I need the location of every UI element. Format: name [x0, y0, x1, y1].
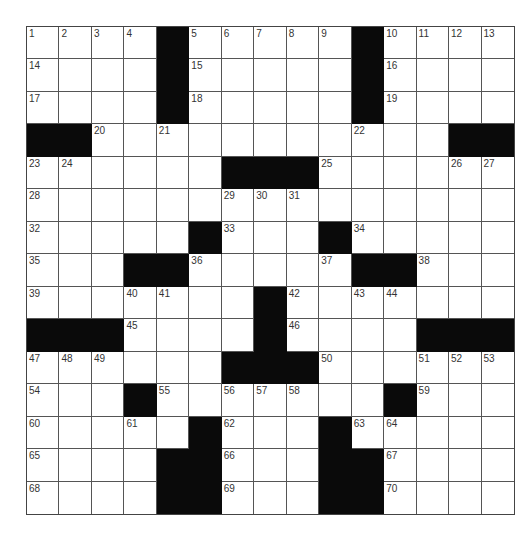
grid-cell[interactable]: 41	[157, 287, 189, 319]
grid-cell[interactable]: 50	[319, 352, 351, 384]
grid-cell[interactable]: 8	[287, 27, 319, 59]
grid-cell[interactable]	[157, 189, 189, 221]
grid-cell[interactable]	[92, 287, 124, 319]
grid-cell[interactable]	[157, 319, 189, 351]
grid-cell[interactable]	[254, 92, 286, 124]
grid-cell[interactable]	[482, 254, 514, 286]
grid-cell[interactable]	[59, 287, 91, 319]
grid-cell[interactable]: 64	[384, 417, 416, 449]
grid-cell[interactable]	[189, 384, 221, 416]
grid-cell[interactable]	[59, 384, 91, 416]
grid-cell[interactable]: 40	[124, 287, 156, 319]
grid-cell[interactable]	[482, 59, 514, 91]
grid-cell[interactable]: 24	[59, 157, 91, 189]
grid-cell[interactable]: 12	[449, 27, 481, 59]
grid-cell[interactable]	[449, 417, 481, 449]
grid-cell[interactable]	[59, 254, 91, 286]
grid-cell[interactable]	[319, 384, 351, 416]
grid-cell[interactable]: 29	[222, 189, 254, 221]
grid-cell[interactable]: 44	[384, 287, 416, 319]
grid-cell[interactable]: 60	[27, 417, 59, 449]
grid-cell[interactable]: 10	[384, 27, 416, 59]
grid-cell[interactable]: 54	[27, 384, 59, 416]
grid-cell[interactable]: 49	[92, 352, 124, 384]
grid-cell[interactable]: 70	[384, 482, 416, 514]
grid-cell[interactable]	[287, 254, 319, 286]
grid-cell[interactable]	[319, 319, 351, 351]
grid-cell[interactable]	[189, 352, 221, 384]
grid-cell[interactable]	[287, 417, 319, 449]
grid-cell[interactable]: 18	[189, 92, 221, 124]
grid-cell[interactable]: 62	[222, 417, 254, 449]
grid-cell[interactable]	[59, 417, 91, 449]
grid-cell[interactable]	[157, 222, 189, 254]
grid-cell[interactable]	[384, 124, 416, 156]
grid-cell[interactable]	[124, 352, 156, 384]
grid-cell[interactable]	[92, 157, 124, 189]
grid-cell[interactable]	[449, 222, 481, 254]
grid-cell[interactable]	[124, 482, 156, 514]
grid-cell[interactable]: 68	[27, 482, 59, 514]
grid-cell[interactable]	[482, 384, 514, 416]
grid-cell[interactable]: 21	[157, 124, 189, 156]
grid-cell[interactable]: 14	[27, 59, 59, 91]
grid-cell[interactable]	[352, 384, 384, 416]
grid-cell[interactable]: 33	[222, 222, 254, 254]
grid-cell[interactable]	[417, 189, 449, 221]
grid-cell[interactable]: 13	[482, 27, 514, 59]
grid-cell[interactable]: 5	[189, 27, 221, 59]
grid-cell[interactable]	[59, 222, 91, 254]
grid-cell[interactable]	[319, 287, 351, 319]
grid-cell[interactable]: 61	[124, 417, 156, 449]
grid-cell[interactable]	[384, 319, 416, 351]
grid-cell[interactable]	[417, 482, 449, 514]
grid-cell[interactable]	[384, 222, 416, 254]
grid-cell[interactable]	[482, 92, 514, 124]
grid-cell[interactable]	[222, 59, 254, 91]
grid-cell[interactable]	[124, 449, 156, 481]
grid-cell[interactable]	[417, 417, 449, 449]
grid-cell[interactable]	[482, 222, 514, 254]
grid-cell[interactable]: 19	[384, 92, 416, 124]
grid-cell[interactable]	[222, 254, 254, 286]
grid-cell[interactable]	[157, 352, 189, 384]
grid-cell[interactable]: 23	[27, 157, 59, 189]
grid-cell[interactable]	[124, 92, 156, 124]
grid-cell[interactable]: 37	[319, 254, 351, 286]
grid-cell[interactable]: 1	[27, 27, 59, 59]
grid-cell[interactable]	[352, 157, 384, 189]
grid-cell[interactable]	[92, 449, 124, 481]
grid-cell[interactable]	[124, 222, 156, 254]
grid-cell[interactable]: 31	[287, 189, 319, 221]
grid-cell[interactable]: 36	[189, 254, 221, 286]
grid-cell[interactable]	[352, 352, 384, 384]
grid-cell[interactable]	[482, 189, 514, 221]
grid-cell[interactable]: 56	[222, 384, 254, 416]
grid-cell[interactable]: 63	[352, 417, 384, 449]
grid-cell[interactable]	[189, 287, 221, 319]
grid-cell[interactable]	[417, 59, 449, 91]
grid-cell[interactable]	[59, 449, 91, 481]
grid-cell[interactable]	[384, 189, 416, 221]
grid-cell[interactable]: 30	[254, 189, 286, 221]
grid-cell[interactable]: 28	[27, 189, 59, 221]
grid-cell[interactable]: 42	[287, 287, 319, 319]
grid-cell[interactable]: 48	[59, 352, 91, 384]
grid-cell[interactable]	[449, 482, 481, 514]
grid-cell[interactable]: 15	[189, 59, 221, 91]
grid-cell[interactable]: 16	[384, 59, 416, 91]
grid-cell[interactable]	[92, 59, 124, 91]
grid-cell[interactable]	[449, 92, 481, 124]
grid-cell[interactable]: 26	[449, 157, 481, 189]
grid-cell[interactable]	[482, 449, 514, 481]
grid-cell[interactable]	[124, 124, 156, 156]
grid-cell[interactable]	[319, 189, 351, 221]
grid-cell[interactable]	[254, 124, 286, 156]
grid-cell[interactable]	[59, 482, 91, 514]
grid-cell[interactable]: 22	[352, 124, 384, 156]
grid-cell[interactable]	[124, 189, 156, 221]
grid-cell[interactable]	[482, 482, 514, 514]
grid-cell[interactable]: 9	[319, 27, 351, 59]
grid-cell[interactable]	[319, 92, 351, 124]
grid-cell[interactable]: 66	[222, 449, 254, 481]
